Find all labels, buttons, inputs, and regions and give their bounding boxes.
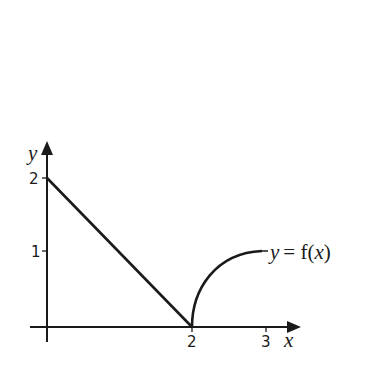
curve-label: y= f(x) — [268, 240, 331, 264]
tick-label-y1: 1 — [31, 243, 41, 261]
x-axis-label: x — [283, 328, 294, 352]
graph: 2 1 2 3 y x y= f(x) — [0, 0, 383, 386]
y-axis-label: y — [26, 141, 38, 165]
line-segment — [47, 178, 192, 327]
tick-label-x3: 3 — [261, 333, 271, 351]
curve-segment — [192, 251, 262, 327]
tick-label-y2: 2 — [29, 170, 39, 188]
tick-label-x2: 2 — [187, 333, 197, 351]
y-axis-arrow-icon — [41, 141, 53, 155]
